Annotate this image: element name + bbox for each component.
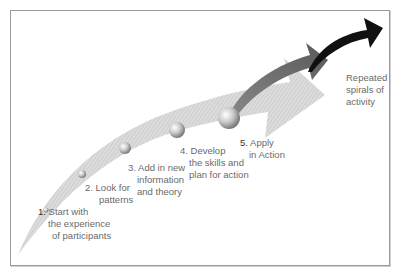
step-2-label: 2. Look for patterns xyxy=(85,182,133,206)
sphere-step-4 xyxy=(169,122,185,138)
sphere-step-2 xyxy=(78,170,86,178)
step-5-label: 5. Apply in Action xyxy=(240,137,285,161)
repeated-spirals-label: Repeated spirals of activity xyxy=(346,72,387,108)
sphere-step-5 xyxy=(218,107,240,129)
sphere-step-3 xyxy=(119,142,131,154)
step-4-label: 4. Develop the skills and plan for actio… xyxy=(180,145,249,181)
step-3-label: 3. Add in new information and theory xyxy=(128,162,185,198)
step-1-label: 1. Start with the experience of particip… xyxy=(38,206,111,242)
step-1-number: 1. xyxy=(38,206,46,217)
